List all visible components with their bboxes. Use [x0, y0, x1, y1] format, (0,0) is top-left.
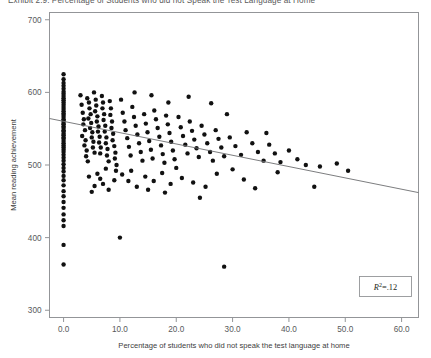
data-point — [287, 148, 291, 152]
y-axis-title: Mean reading achievement — [9, 118, 18, 210]
data-point — [278, 160, 282, 164]
data-point — [147, 139, 151, 143]
data-point — [112, 144, 116, 148]
data-point — [82, 117, 86, 121]
data-point — [89, 121, 93, 125]
data-point — [139, 150, 143, 154]
data-point — [94, 103, 98, 107]
data-point — [125, 136, 129, 140]
data-point — [61, 189, 65, 193]
r-squared-annotation: R2=.12 — [360, 277, 412, 297]
data-point — [85, 96, 89, 100]
x-axis-title: Percentage of students who did not speak… — [118, 341, 349, 350]
data-point — [142, 112, 146, 116]
x-tick-label: 30.0 — [225, 325, 241, 334]
data-point — [61, 72, 65, 76]
data-point — [96, 129, 100, 133]
data-point — [150, 156, 154, 160]
data-point — [113, 150, 117, 154]
data-point — [104, 141, 108, 145]
data-point — [143, 174, 147, 178]
data-point — [233, 144, 237, 148]
data-point — [335, 161, 339, 165]
data-point — [108, 99, 112, 103]
y-tick-label: 700 — [28, 16, 42, 25]
data-point — [197, 155, 201, 159]
data-point — [100, 94, 104, 98]
data-point — [61, 169, 65, 173]
data-point — [86, 159, 90, 163]
data-point — [155, 126, 159, 130]
data-point — [99, 145, 103, 149]
data-point — [61, 178, 65, 182]
data-point — [101, 118, 105, 122]
data-point — [121, 111, 125, 115]
data-point — [157, 134, 161, 138]
data-point — [295, 157, 299, 161]
data-point — [222, 154, 226, 158]
data-point — [167, 131, 171, 135]
data-point — [132, 115, 136, 119]
data-point — [180, 176, 184, 180]
data-point — [203, 185, 207, 189]
data-point — [123, 128, 127, 132]
data-point — [101, 100, 105, 104]
data-point — [83, 138, 87, 142]
data-point — [250, 141, 254, 145]
scatter-plot: 300400500600700 0.010.020.030.040.050.06… — [0, 0, 431, 358]
data-point — [135, 185, 139, 189]
data-point — [273, 151, 277, 155]
data-point — [222, 264, 226, 268]
data-point — [112, 178, 116, 182]
x-tick-label: 40.0 — [281, 325, 297, 334]
x-axis-ticks: 0.010.020.030.040.050.060.0 — [58, 318, 410, 335]
data-point — [162, 161, 166, 165]
data-point — [152, 179, 156, 183]
y-tick-label: 400 — [28, 234, 42, 243]
data-point — [304, 163, 308, 167]
data-point — [97, 140, 101, 144]
data-point — [149, 148, 153, 152]
data-point — [225, 112, 229, 116]
data-point — [318, 164, 322, 168]
data-point — [179, 125, 183, 129]
data-point — [110, 138, 114, 142]
data-point — [79, 103, 83, 107]
data-point — [61, 212, 65, 216]
data-point — [164, 113, 168, 117]
data-point — [104, 135, 108, 139]
data-point — [118, 235, 122, 239]
data-point — [82, 143, 86, 147]
x-tick-label: 50.0 — [337, 325, 353, 334]
data-point — [244, 130, 248, 134]
data-point — [160, 171, 164, 175]
data-point — [128, 153, 132, 157]
data-point — [92, 150, 96, 154]
data-point — [219, 145, 223, 149]
data-point — [105, 153, 109, 157]
data-point — [61, 174, 65, 178]
data-point — [174, 166, 178, 170]
data-point — [61, 262, 65, 266]
data-point — [84, 154, 88, 158]
data-point — [90, 190, 94, 194]
data-point — [86, 116, 90, 120]
y-tick-label: 600 — [28, 88, 42, 97]
data-point — [83, 128, 87, 132]
data-point — [137, 141, 141, 145]
data-point — [97, 134, 101, 138]
data-point — [119, 97, 123, 101]
data-point — [242, 177, 246, 181]
data-point — [92, 184, 96, 188]
data-point — [253, 186, 257, 190]
data-point — [103, 124, 107, 128]
data-point — [109, 106, 113, 110]
data-point — [93, 109, 97, 113]
data-point — [172, 157, 176, 161]
data-point — [198, 195, 202, 199]
data-point — [146, 187, 150, 191]
data-point — [100, 106, 104, 110]
data-point — [275, 170, 279, 174]
data-point — [256, 150, 260, 154]
data-point — [144, 121, 148, 125]
